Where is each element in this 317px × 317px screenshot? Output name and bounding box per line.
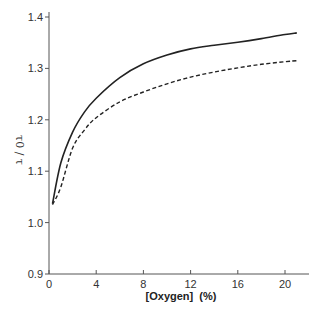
series-line-dashed: [53, 61, 297, 205]
y-tick-label: 1.1: [28, 165, 43, 177]
y-tick-label: 1.3: [28, 62, 43, 74]
y-axis-title: τ0 / τ: [13, 135, 26, 165]
x-tick-label: 0: [46, 278, 52, 290]
x-ticks: 048121620: [46, 270, 291, 290]
x-tick-label: 16: [232, 278, 244, 290]
x-tick-label: 12: [184, 278, 196, 290]
x-tick-label: 8: [140, 278, 146, 290]
series-group: [53, 33, 297, 205]
series-line-solid: [53, 33, 297, 204]
x-axis-title: [Oxygen] (%): [146, 290, 217, 302]
y-ticks: 0.91.01.11.21.31.4: [28, 11, 49, 280]
x-tick-label: 20: [279, 278, 291, 290]
y-tick-label: 1.4: [28, 11, 43, 23]
y-tick-label: 1.0: [28, 217, 43, 229]
line-chart: 0.91.01.11.21.31.4 048121620 [Oxygen] (%…: [0, 0, 317, 317]
y-tick-label: 0.9: [28, 268, 43, 280]
x-tick-label: 4: [93, 278, 99, 290]
y-tick-label: 1.2: [28, 114, 43, 126]
